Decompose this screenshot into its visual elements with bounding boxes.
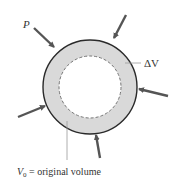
bulk-modulus-diagram: P ΔV V0 = original volume [0,0,176,182]
pressure-label: P [22,18,30,30]
v0-caption: V0 = original volume [17,166,101,179]
arrow-top-right [114,15,126,38]
inner-dashed-original-volume [59,56,121,118]
arrow-right [139,89,168,96]
diagram-canvas: P ΔV V0 = original volume [0,0,176,182]
arrow-upper-left [34,28,54,47]
delta-v-label: ΔV [144,57,159,69]
arrow-bottom [96,135,100,158]
arrow-left [18,106,45,117]
